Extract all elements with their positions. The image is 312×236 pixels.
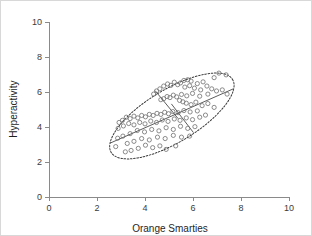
data-point	[147, 138, 151, 142]
data-point	[200, 104, 204, 108]
data-point	[198, 115, 202, 119]
data-point	[163, 136, 167, 140]
data-point	[172, 117, 176, 121]
data-point	[212, 76, 216, 80]
data-point	[140, 113, 144, 117]
x-axis-title: Orange Smarties	[132, 223, 208, 234]
data-point	[121, 124, 125, 128]
data-point	[179, 135, 183, 139]
data-point	[210, 87, 214, 91]
y-tick-label: 0	[37, 192, 42, 202]
data-point	[124, 115, 128, 119]
data-point	[143, 122, 147, 126]
y-tick-label: 2	[37, 157, 42, 167]
data-point	[166, 119, 170, 123]
data-point	[117, 120, 121, 124]
data-point	[149, 119, 153, 123]
data-point	[189, 103, 193, 107]
data-point	[194, 100, 198, 104]
data-point	[127, 121, 131, 125]
data-point	[132, 139, 136, 143]
data-point	[132, 123, 136, 127]
data-point	[172, 80, 176, 84]
scatter-plot-figure: 0246810 0246810 Orange Smarties Hyperact…	[0, 0, 312, 236]
chart-canvas: 0246810 0246810 Orange Smarties Hyperact…	[1, 1, 312, 236]
data-point	[164, 126, 168, 130]
data-point	[186, 126, 190, 130]
data-point	[184, 116, 188, 120]
y-tick-label: 8	[37, 52, 42, 62]
data-point	[198, 94, 202, 98]
data-point	[193, 125, 197, 129]
data-point	[132, 114, 136, 118]
data-point	[206, 101, 210, 105]
data-points-group	[114, 71, 230, 154]
data-point	[157, 129, 161, 133]
data-point	[123, 150, 127, 154]
x-tick-label: 8	[238, 203, 243, 213]
x-tick-label: 0	[46, 203, 51, 213]
x-axis-ticks-group: 0246810	[46, 197, 294, 213]
data-point	[205, 84, 209, 88]
data-point	[138, 120, 142, 124]
data-point	[140, 136, 144, 140]
data-point	[183, 85, 187, 89]
data-point	[171, 127, 175, 131]
data-point	[151, 146, 155, 150]
data-point	[188, 110, 192, 114]
data-point	[199, 88, 203, 92]
data-point	[206, 92, 210, 96]
data-point	[158, 144, 162, 148]
y-axis-ticks-group: 0246810	[32, 17, 49, 202]
data-point	[220, 88, 224, 92]
data-point	[195, 82, 199, 86]
data-point	[174, 144, 178, 148]
y-axis-title: Hyperactivity	[8, 80, 19, 137]
data-point	[203, 113, 207, 117]
data-point	[192, 86, 196, 90]
data-point	[114, 145, 118, 149]
data-point	[195, 109, 199, 113]
data-point	[125, 141, 129, 145]
data-point	[190, 118, 194, 122]
data-point	[190, 91, 194, 95]
data-point	[185, 94, 189, 98]
x-tick-label: 10	[284, 203, 294, 213]
data-point	[178, 118, 182, 122]
data-point	[152, 92, 156, 96]
data-point	[225, 92, 229, 96]
data-point	[162, 84, 166, 88]
data-point	[179, 92, 183, 96]
data-point	[142, 130, 146, 134]
data-point	[188, 84, 192, 88]
data-point	[143, 143, 147, 147]
data-point	[129, 148, 133, 152]
data-point	[178, 124, 182, 128]
data-point	[171, 133, 175, 137]
data-point	[147, 112, 151, 116]
y-tick-label: 10	[32, 17, 42, 27]
data-point	[155, 135, 159, 139]
y-tick-label: 6	[37, 87, 42, 97]
data-point	[150, 127, 154, 131]
x-tick-label: 6	[190, 203, 195, 213]
data-point	[212, 105, 216, 109]
x-tick-label: 4	[142, 203, 147, 213]
x-tick-label: 2	[94, 203, 99, 213]
data-point	[116, 126, 120, 130]
data-point	[201, 80, 205, 84]
data-point	[136, 146, 140, 150]
data-point	[214, 89, 218, 93]
y-tick-label: 4	[37, 122, 42, 132]
axes-group	[49, 22, 289, 197]
